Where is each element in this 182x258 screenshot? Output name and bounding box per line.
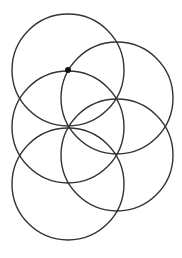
circle-bottom-left (12, 128, 124, 240)
circles-diagram (0, 0, 182, 258)
marked-point (65, 67, 71, 73)
diagram-canvas (0, 0, 182, 258)
